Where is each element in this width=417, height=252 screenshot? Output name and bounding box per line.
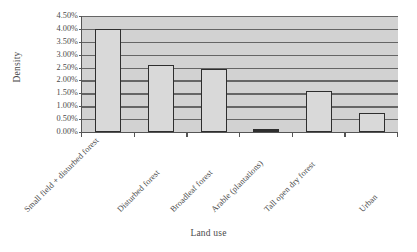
- x-axis-title: Land use: [0, 228, 417, 238]
- x-tick-mark: [186, 133, 187, 137]
- y-tick-label: 0.50%: [38, 115, 78, 123]
- x-category-label: Small field + disturbed forest: [23, 136, 101, 214]
- y-axis-tick-labels: 0.00%0.50%1.00%1.50%2.00%2.50%3.00%3.50%…: [38, 14, 78, 132]
- y-tick-label: 1.50%: [38, 89, 78, 97]
- bar: [306, 91, 332, 132]
- y-tick-label: 4.00%: [38, 25, 78, 33]
- x-tick-mark: [134, 133, 135, 137]
- x-tick-mark: [239, 133, 240, 137]
- x-category-label: Disturbed forest: [116, 168, 162, 214]
- x-category-label: Broadleaf forest: [168, 168, 214, 214]
- x-tick-mark: [292, 133, 293, 137]
- bar: [201, 69, 227, 132]
- bars-group: [82, 16, 398, 132]
- bar: [148, 65, 174, 132]
- y-tick-label: 1.00%: [38, 102, 78, 110]
- x-tick-mark: [81, 133, 82, 137]
- bar: [359, 113, 385, 132]
- density-by-land-use-bar-chart: Density 0.00%0.50%1.00%1.50%2.00%2.50%3.…: [0, 0, 417, 252]
- x-tick-mark: [397, 133, 398, 137]
- x-tick-mark: [344, 133, 345, 137]
- x-category-label: Tall open dry forest: [262, 160, 316, 214]
- x-axis-category-labels: Small field + disturbed forestDisturbed …: [0, 138, 417, 216]
- y-tick-label: 3.50%: [38, 38, 78, 46]
- x-category-label: Arable (plantations): [210, 159, 265, 214]
- y-tick-label: 2.00%: [38, 76, 78, 84]
- y-tick-label: 0.00%: [38, 128, 78, 136]
- y-tick-label: 2.50%: [38, 64, 78, 72]
- y-tick-label: 3.00%: [38, 51, 78, 59]
- plot-area: [81, 16, 398, 132]
- y-tick-label: 4.50%: [38, 12, 78, 20]
- x-category-label: Urban: [358, 192, 380, 214]
- bar: [95, 29, 121, 132]
- y-axis-title: Density: [12, 37, 22, 97]
